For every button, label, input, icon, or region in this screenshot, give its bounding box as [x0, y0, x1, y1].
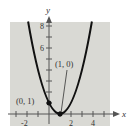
parabola-chart: x -2 2 4 y 6 8 (0, 1) (1, 0): [0, 0, 127, 135]
x-tick-label: 2: [69, 119, 73, 128]
y-axis-label: y: [45, 5, 50, 15]
x-axis-label: x: [121, 109, 126, 119]
y-axis-arrow-icon: [46, 16, 52, 23]
x-tick-label: -2: [21, 119, 28, 128]
point-0-1: [47, 101, 52, 106]
x-tick-label: 4: [91, 119, 95, 128]
x-axis-arrow-icon: [113, 111, 120, 117]
y-tick-label: 8: [40, 22, 44, 31]
point-label-1-0: (1, 0): [55, 59, 74, 69]
plot-background: [10, 22, 110, 126]
point-1-0: [58, 112, 63, 117]
point-label-0-1: (0, 1): [16, 96, 35, 106]
y-tick-label: 6: [40, 44, 44, 53]
